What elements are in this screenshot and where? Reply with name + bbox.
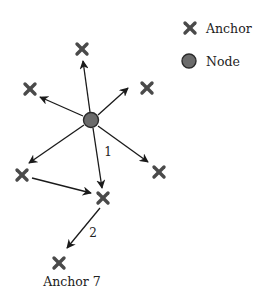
anchor-icon [17, 170, 27, 180]
edge-label-2: 2 [89, 226, 97, 240]
anchor-icon [154, 167, 164, 177]
arrow-node-to-anchor-upper-left [40, 97, 83, 116]
legend-anchor-label: Anchor [205, 21, 252, 36]
anchor-icon [77, 44, 87, 54]
legend-node-label: Node [206, 54, 240, 69]
edge-label-1: 1 [104, 145, 112, 159]
legend-node-icon [182, 54, 196, 68]
arrow-node-to-anchor-top [83, 61, 90, 112]
node-icon [84, 113, 99, 128]
arrow-node-to-anchor-left [29, 125, 84, 163]
arrow-node-to-anchor-upper-right [98, 88, 128, 115]
arrow-node-to-anchor-center-lower [93, 128, 102, 188]
arrows [29, 61, 148, 248]
anchor-7-icon [54, 258, 64, 268]
localization-diagram: 1 2 Anchor 7 Anchor Node [0, 0, 258, 306]
anchor-7-label: Anchor 7 [42, 274, 101, 289]
anchor-icon [98, 193, 108, 203]
legend-anchor-icon [185, 23, 195, 33]
anchor-icon [25, 84, 35, 94]
anchor-icon [142, 83, 152, 93]
legend: Anchor Node [182, 21, 252, 69]
arrow-anchor-left-to-center-lower [32, 178, 91, 193]
